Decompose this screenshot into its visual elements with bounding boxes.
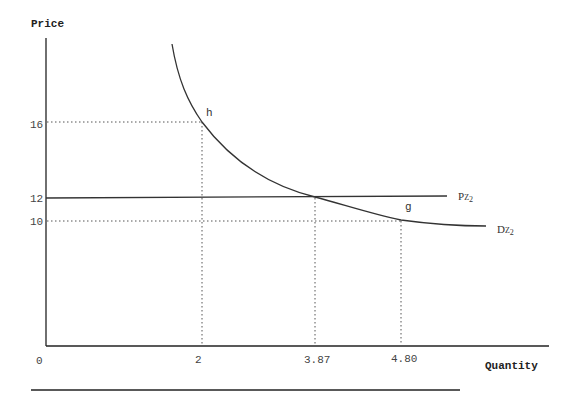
- y-tick-12: 12: [30, 193, 43, 205]
- demand-curve-label: DZ2: [497, 223, 514, 237]
- y-tick-10: 10: [30, 216, 43, 228]
- y-axis-title: Price: [31, 18, 64, 30]
- demand-curve-label-main: D: [497, 223, 505, 235]
- demand-curve-dz2: [172, 44, 486, 226]
- x-axis-title: Quantity: [485, 360, 538, 372]
- price-line-label: PZ2: [458, 190, 473, 204]
- reference-lines: [47, 122, 401, 345]
- x-tick-4-80: 4.80: [391, 353, 417, 365]
- x-tick-3-87: 3.87: [304, 354, 330, 366]
- x-tick-2: 2: [195, 354, 202, 366]
- demand-curve-label-subscript: 2: [510, 228, 514, 237]
- price-quantity-chart: Price Quantity 16 12 10 0 2 3.87 4.80 h …: [0, 0, 578, 395]
- point-g-label: g: [405, 201, 412, 213]
- price-line-label-subscript: 2: [469, 195, 473, 204]
- origin-label: 0: [36, 355, 43, 367]
- y-tick-16: 16: [30, 119, 43, 131]
- point-h-label: h: [206, 107, 213, 119]
- price-line-pz2: [46, 196, 447, 198]
